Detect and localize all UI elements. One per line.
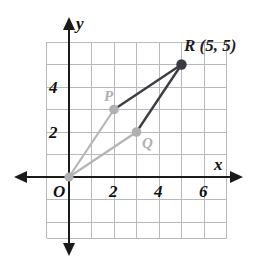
x-axis-right-arrow-icon — [230, 171, 243, 183]
points-group — [64, 59, 186, 181]
point-O — [64, 172, 73, 181]
x-axis-left-arrow-icon — [14, 171, 27, 183]
y-axis-down-arrow-icon — [63, 243, 75, 256]
y-tick-label-2: 2 — [48, 123, 58, 142]
point-label-Q: Q — [142, 135, 153, 151]
point-label-R: R (5, 5) — [183, 36, 236, 55]
point-Q — [132, 127, 142, 137]
point-P — [109, 105, 119, 115]
y-axis-up-arrow-icon — [63, 17, 75, 30]
coordinate-plane-svg: y x O 2 4 2 4 6 P Q R (5, 5) — [0, 0, 255, 264]
point-R — [176, 59, 186, 69]
segments-dark-group — [114, 65, 182, 133]
y-axis-label: y — [74, 14, 84, 33]
grid-group — [47, 42, 227, 238]
point-label-P: P — [104, 88, 114, 104]
origin-label: O — [53, 182, 65, 201]
coordinate-plane-figure: y x O 2 4 2 4 6 P Q R (5, 5) — [0, 0, 255, 264]
x-tick-label-2: 2 — [108, 182, 118, 201]
y-tick-label-4: 4 — [48, 78, 58, 97]
x-tick-label-4: 4 — [153, 182, 163, 201]
x-tick-label-6: 6 — [199, 182, 208, 201]
x-axis-label: x — [213, 155, 223, 174]
segments-light-group — [69, 110, 137, 178]
